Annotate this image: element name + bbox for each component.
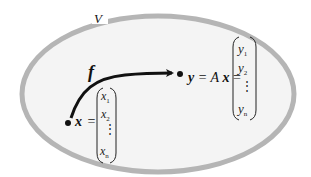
output-x: x xyxy=(221,70,229,85)
output-symbol: y xyxy=(186,70,195,85)
input-component-ellipsis: ⋮ xyxy=(104,122,116,136)
svg-text:x =: x = xyxy=(74,114,96,129)
output-point xyxy=(177,71,183,77)
output-component-ellipsis: ⋮ xyxy=(241,79,253,93)
vector-space-ellipse xyxy=(22,12,294,172)
input-symbol: x xyxy=(74,114,82,129)
linear-map-diagram: V f x = x1 x2 ⋮ xn y = A x = xyxy=(0,0,311,177)
output-equals-a: = A xyxy=(198,70,220,85)
input-equals: = xyxy=(88,114,96,129)
input-point xyxy=(65,120,71,126)
input-equation: x = xyxy=(74,114,96,129)
